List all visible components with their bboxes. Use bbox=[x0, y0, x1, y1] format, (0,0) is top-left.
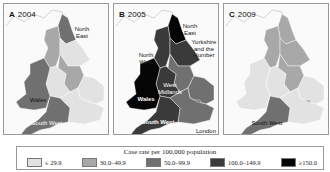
label-north-east: North East bbox=[178, 23, 202, 36]
label-wales: Wales bbox=[136, 96, 156, 103]
label-south-west: South West bbox=[250, 120, 284, 127]
legend-swatch bbox=[27, 158, 42, 167]
label-yorkshire: Yorkshire and the Humber bbox=[190, 39, 218, 59]
panel-label: C2009 bbox=[229, 10, 256, 19]
england-wales-map bbox=[4, 4, 108, 134]
legend-title: Case rate per 100,000 population bbox=[17, 148, 323, 156]
panel-label: A2004 bbox=[9, 10, 36, 19]
legend-swatch bbox=[146, 158, 161, 167]
legend-item: ≤ 29.9 bbox=[27, 158, 62, 167]
legend-item: ≥150.0 bbox=[281, 158, 317, 167]
label-south-west: South West bbox=[30, 120, 64, 127]
legend-items: ≤ 29.9 30.0–49.9 50.0–99.9 100.0–149.9 ≥… bbox=[27, 158, 317, 167]
label-london: London bbox=[194, 128, 218, 135]
label-north-east: North East bbox=[70, 26, 94, 39]
region-wales bbox=[236, 58, 270, 110]
legend-swatch bbox=[210, 158, 225, 167]
label-wales: Wales bbox=[28, 97, 48, 104]
label-west-midlands: West Midlands bbox=[158, 82, 182, 95]
panel-label: B2005 bbox=[119, 10, 146, 19]
label-south-west: South West bbox=[138, 119, 178, 126]
map-panel-2004: A2004 North East Wales South West bbox=[3, 3, 109, 135]
england-wales-map bbox=[114, 4, 218, 134]
label-north-west: North West bbox=[134, 52, 158, 65]
england-wales-map bbox=[224, 4, 328, 134]
legend-item: 100.0–149.9 bbox=[210, 158, 261, 167]
legend-swatch bbox=[82, 158, 97, 167]
legend-swatch bbox=[281, 158, 296, 167]
map-panel-2009: C2009 South West bbox=[223, 3, 329, 135]
map-panel-2005: B2005 North East Yorkshire and the Humbe… bbox=[113, 3, 219, 135]
legend-item: 50.0–99.9 bbox=[146, 158, 190, 167]
legend-item: 30.0–49.9 bbox=[82, 158, 126, 167]
legend: Case rate per 100,000 population ≤ 29.9 … bbox=[16, 146, 324, 170]
